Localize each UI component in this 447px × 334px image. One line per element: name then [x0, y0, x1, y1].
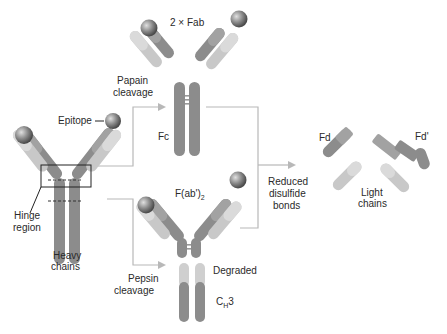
fab2-bond	[187, 244, 191, 246]
papain-label-line1: Papain	[117, 75, 148, 86]
antibody-cleavage-diagram: 2 × Fab Papain cleavage Epitope Fc Hinge…	[0, 0, 447, 334]
fab-right-antigen-icon	[231, 11, 248, 28]
hinge-bond	[65, 189, 69, 191]
fab-left-antigen-icon	[141, 20, 158, 37]
pepsin-arrowhead	[158, 261, 166, 269]
ch3-right	[195, 282, 205, 322]
fc-left-chain	[174, 82, 185, 156]
fd-prime-constant	[394, 139, 420, 162]
fc-bond	[185, 95, 189, 97]
epitope-label: Epitope	[58, 115, 92, 126]
fab2-right-antigen-icon	[230, 172, 247, 189]
ch3-label-main: C	[216, 296, 223, 307]
reduced-label-line2: disulfide	[269, 188, 306, 199]
degraded-fragment	[179, 263, 205, 322]
fc-fragment	[174, 82, 200, 156]
fd-prime-tail	[413, 146, 431, 170]
papain-label-line2: cleavage	[113, 87, 153, 98]
degraded-label: Degraded	[213, 265, 257, 276]
reduced-label-line1: Reduced	[268, 176, 308, 187]
ch3-label-tail: 3	[228, 296, 234, 307]
papain-arrowhead	[158, 103, 166, 111]
fab-label: 2 × Fab	[170, 17, 205, 28]
fab2-fragment	[134, 172, 246, 259]
light-label-line2: chains	[358, 198, 387, 209]
hinge-bond	[65, 193, 69, 195]
pepsin-label-line1: Pepsin	[128, 273, 159, 284]
fab2-label-main: F(ab')	[175, 188, 201, 199]
fab2-bond	[187, 248, 191, 250]
ch3-label: CH3	[216, 296, 234, 309]
heavy-label-line2: chains	[51, 261, 80, 272]
fd-prime-label: Fd'	[415, 131, 429, 142]
epitope	[95, 113, 121, 129]
pepsin-label-line2: cleavage	[114, 285, 154, 296]
epitope-antigen-icon	[105, 113, 121, 129]
ch3-left	[179, 282, 189, 322]
fd-label: Fd	[319, 132, 331, 143]
antigen-icon	[15, 126, 33, 144]
light-label-line1: Light	[361, 187, 383, 198]
fab2-left-antigen-icon	[138, 197, 155, 214]
reduced-label-line3: bonds	[273, 200, 300, 211]
fab2-label-sub: 2	[201, 194, 205, 201]
hinge-label-line2: region	[13, 222, 41, 233]
fab2-label: F(ab')2	[175, 188, 205, 201]
fc-bond	[185, 99, 189, 101]
fc-right-chain	[189, 82, 200, 156]
hinge-label-line1: Hinge	[14, 210, 41, 221]
fc-bond	[185, 103, 189, 105]
fc-label: Fc	[158, 131, 169, 142]
intact-antibody	[11, 126, 124, 264]
heavy-label-line1: Heavy	[53, 250, 81, 261]
reduction-arrowhead	[288, 161, 296, 169]
